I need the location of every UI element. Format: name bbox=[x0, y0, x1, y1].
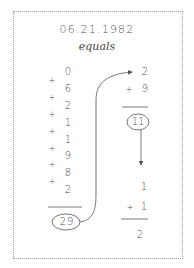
diagram-strokes bbox=[0, 0, 194, 268]
right-step1-oval bbox=[127, 114, 149, 130]
carry-arrow-icon bbox=[80, 72, 132, 222]
left-sum-oval bbox=[52, 214, 80, 230]
